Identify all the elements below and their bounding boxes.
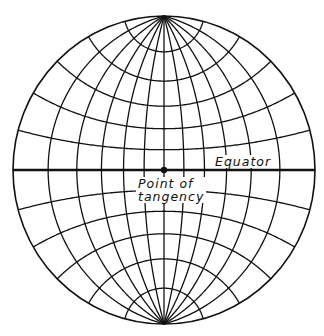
point-of-tangency-label: Point of tangency (136, 177, 206, 203)
equator-label: Equator (213, 155, 273, 168)
point-of-tangency-marker (161, 167, 167, 173)
stereographic-projection-diagram (0, 0, 324, 336)
tangency-label-line2: tangency (138, 190, 204, 203)
